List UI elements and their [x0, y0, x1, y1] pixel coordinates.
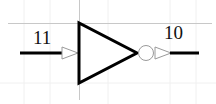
- schematic-canvas: 11 10: [0, 0, 216, 104]
- input-pin-label: 11: [33, 27, 51, 48]
- output-pin-label: 10: [164, 22, 183, 43]
- inversion-bubble-icon: [139, 46, 154, 61]
- output-arrow-icon: [155, 47, 171, 59]
- input-arrow-icon: [62, 47, 78, 59]
- inverter-schematic: 11 10: [0, 0, 216, 104]
